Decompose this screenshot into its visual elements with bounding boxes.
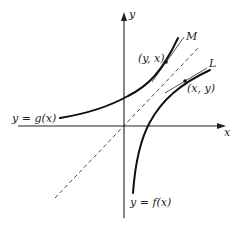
point-on-g (164, 60, 168, 64)
reflection-line-y-equals-x (55, 46, 200, 198)
inverse-function-diagram: y x M L (y, x) (x, y) y = g(x) y = f(x) (0, 0, 242, 235)
label-L: L (208, 57, 216, 70)
label-point-on-f: (x, y) (187, 82, 215, 95)
label-curve-f: y = f(x) (129, 196, 171, 209)
label-curve-g: y = g(x) (11, 112, 56, 125)
y-axis-label: y (128, 8, 136, 21)
y-axis-arrow-icon (121, 12, 127, 21)
label-M: M (185, 30, 198, 43)
x-axis-label: x (224, 126, 231, 139)
label-point-on-g: (y, x) (138, 52, 165, 65)
